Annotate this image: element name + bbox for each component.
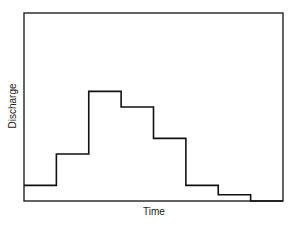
y-axis-label: Discharge xyxy=(7,83,18,128)
discharge-step-line xyxy=(24,91,283,201)
x-axis-label: Time xyxy=(143,206,165,217)
step-hydrograph-chart xyxy=(0,0,290,226)
